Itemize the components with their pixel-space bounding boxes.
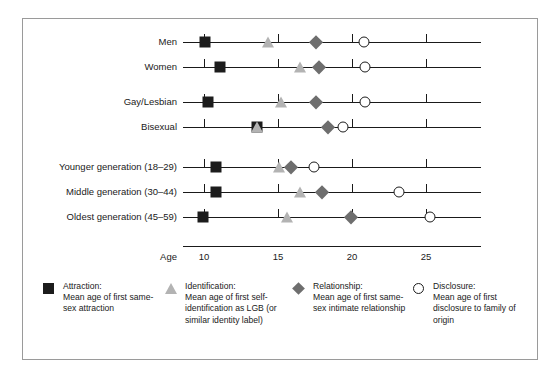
legend-title: Identification: <box>185 281 285 292</box>
row-tick <box>352 59 353 67</box>
row-tick <box>278 34 279 42</box>
x-axis-tick-label: 10 <box>199 251 210 262</box>
legend-diamond-icon <box>293 283 306 296</box>
row-tick <box>426 159 427 167</box>
legend-title: Disclosure: <box>433 281 533 292</box>
data-point-diamond-icon <box>285 160 298 173</box>
row-tick <box>278 184 279 192</box>
data-point-triangle-icon <box>281 212 293 223</box>
row-label: Gay/Lesbian <box>29 97 177 107</box>
data-point-square-icon <box>210 162 221 173</box>
legend-triangle-icon <box>165 283 178 296</box>
row-axis-line <box>183 67 481 68</box>
row-tick <box>426 184 427 192</box>
row-label: Bisexual <box>29 122 177 132</box>
data-point-diamond-icon <box>322 120 335 133</box>
chart-frame: MenWomenGay/LesbianBisexualYounger gener… <box>22 18 538 360</box>
data-point-square-icon <box>197 212 208 223</box>
chart-legend: Attraction:Mean age of first same-sex at… <box>35 281 527 351</box>
data-point-diamond-icon <box>316 185 329 198</box>
data-point-square-icon <box>200 37 211 48</box>
data-point-circle-icon <box>360 97 371 108</box>
row-tick <box>352 184 353 192</box>
row-label: Women <box>29 62 177 72</box>
row-tick <box>278 59 279 67</box>
legend-description: Mean age of first same-sex intimate rela… <box>313 292 413 314</box>
data-point-circle-icon <box>308 162 319 173</box>
row-tick <box>204 184 205 192</box>
data-point-triangle-icon <box>262 37 274 48</box>
legend-title: Attraction: <box>63 281 163 292</box>
row-tick <box>278 119 279 127</box>
data-point-diamond-icon <box>310 95 323 108</box>
row-axis-line <box>183 217 481 218</box>
data-point-diamond-icon <box>313 60 326 73</box>
row-tick <box>426 119 427 127</box>
data-point-circle-icon <box>425 212 436 223</box>
legend-text: Disclosure:Mean age of first disclosure … <box>433 281 533 326</box>
row-label: Oldest generation (45–59) <box>29 212 177 222</box>
row-tick <box>352 34 353 42</box>
x-axis-tick-label: 20 <box>347 251 358 262</box>
row-axis-line <box>183 42 481 43</box>
x-axis-tick-label: 15 <box>273 251 284 262</box>
x-axis-line <box>183 246 481 247</box>
x-axis-tick-label: 25 <box>421 251 432 262</box>
legend-text: Relationship:Mean age of first same-sex … <box>313 281 413 315</box>
data-point-diamond-icon <box>344 210 357 223</box>
row-label: Middle generation (30–44) <box>29 187 177 197</box>
data-point-square-icon <box>210 187 221 198</box>
data-point-triangle-icon <box>294 187 306 198</box>
row-axis-line <box>183 167 481 168</box>
row-tick <box>352 94 353 102</box>
data-point-triangle-icon <box>275 97 287 108</box>
x-axis-title: Age <box>29 251 177 262</box>
row-tick <box>426 94 427 102</box>
row-tick <box>426 34 427 42</box>
row-tick <box>204 119 205 127</box>
row-tick <box>352 119 353 127</box>
data-point-square-icon <box>215 62 226 73</box>
row-tick <box>278 209 279 217</box>
legend-title: Relationship: <box>313 281 413 292</box>
data-point-triangle-icon <box>294 62 306 73</box>
row-tick <box>352 159 353 167</box>
row-axis-line <box>183 102 481 103</box>
data-point-circle-icon <box>358 37 369 48</box>
data-point-square-icon <box>203 97 214 108</box>
row-label: Younger generation (18–29) <box>29 162 177 172</box>
legend-square-icon <box>43 283 56 296</box>
data-point-circle-icon <box>338 122 349 133</box>
row-label: Men <box>29 37 177 47</box>
data-point-diamond-icon <box>310 35 323 48</box>
legend-circle-icon <box>413 283 426 296</box>
row-tick <box>204 159 205 167</box>
legend-text: Attraction:Mean age of first same-sex at… <box>63 281 163 315</box>
data-point-triangle-icon <box>251 122 263 133</box>
legend-description: Mean age of first disclosure to family o… <box>433 292 533 326</box>
row-tick <box>426 59 427 67</box>
data-point-circle-icon <box>394 187 405 198</box>
data-point-circle-icon <box>360 62 371 73</box>
row-tick <box>204 59 205 67</box>
legend-description: Mean age of first self-identification as… <box>185 292 285 326</box>
row-axis-line <box>183 192 481 193</box>
legend-description: Mean age of first same-sex attraction <box>63 292 163 314</box>
legend-text: Identification:Mean age of first self-id… <box>185 281 285 326</box>
